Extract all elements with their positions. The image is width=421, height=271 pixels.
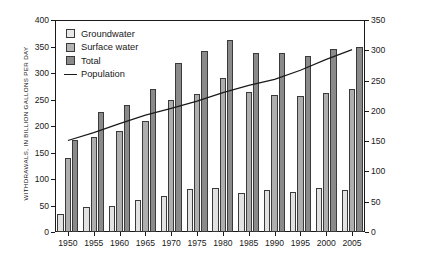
- y-tick-label-right: 150: [371, 136, 385, 146]
- legend-item-label: Surface water: [81, 42, 138, 52]
- chart-legend: GroundwaterSurface waterTotalPopulation: [66, 27, 138, 81]
- y-tick-right: [365, 81, 369, 82]
- x-tick-label-1995: 1995: [291, 238, 310, 248]
- x-tick-label-2000: 2000: [317, 238, 336, 248]
- legend-line-marker-icon: [64, 74, 77, 75]
- legend-swatch-icon: [66, 56, 75, 65]
- y-axis-left-title: WITHDRAWALS, IN BILLION GALLONS PER DAY: [22, 39, 29, 209]
- x-tick-label-1955: 1955: [84, 238, 103, 248]
- x-tick-label-2005: 2005: [343, 238, 362, 248]
- y-tick-right: [365, 232, 369, 233]
- y-tick-label-left: 350: [35, 42, 49, 52]
- y-tick-right: [365, 171, 369, 172]
- y-tick-right: [365, 111, 369, 112]
- y-tick-label-right: 350: [371, 15, 385, 25]
- y-tick-right: [365, 20, 369, 21]
- y-tick-left: [51, 232, 55, 233]
- y-tick-label-right: 0: [371, 227, 376, 237]
- y-tick-label-left: 400: [35, 15, 49, 25]
- x-tick-label-1970: 1970: [162, 238, 181, 248]
- x-tick: [249, 232, 250, 236]
- y-tick-right: [365, 202, 369, 203]
- legend-swatch-icon: [66, 29, 75, 38]
- x-tick: [145, 232, 146, 236]
- y-tick-label-right: 250: [371, 76, 385, 86]
- legend-item-label: Total: [81, 56, 101, 66]
- x-tick-label-1965: 1965: [136, 238, 155, 248]
- y-tick-label-right: 50: [371, 197, 381, 207]
- x-tick: [223, 232, 224, 236]
- y-tick-label-right: 300: [371, 45, 385, 55]
- y-tick-label-left: 0: [44, 227, 49, 237]
- x-tick-label-1960: 1960: [110, 238, 129, 248]
- x-tick: [352, 232, 353, 236]
- x-tick: [197, 232, 198, 236]
- legend-item-population: Population: [66, 68, 138, 82]
- x-tick-label-1950: 1950: [58, 238, 77, 248]
- y-tick-label-left: 50: [39, 201, 49, 211]
- y-tick-label-left: 250: [35, 95, 49, 105]
- x-tick: [326, 232, 327, 236]
- x-tick-label-1975: 1975: [188, 238, 207, 248]
- x-tick: [171, 232, 172, 236]
- x-tick: [68, 232, 69, 236]
- y-tick-label-left: 200: [35, 121, 49, 131]
- x-tick-label-1980: 1980: [213, 238, 232, 248]
- x-tick: [94, 232, 95, 236]
- x-tick-label-1990: 1990: [265, 238, 284, 248]
- legend-item-label: Groundwater: [81, 29, 135, 39]
- x-tick: [275, 232, 276, 236]
- legend-item-total: Total: [66, 54, 138, 68]
- x-tick: [120, 232, 121, 236]
- legend-item-groundwater: Groundwater: [66, 27, 138, 41]
- x-tick: [300, 232, 301, 236]
- x-tick-label-1985: 1985: [239, 238, 258, 248]
- legend-item-label: Population: [81, 69, 125, 79]
- y-tick-label-left: 100: [35, 174, 49, 184]
- y-tick-label-left: 300: [35, 68, 49, 78]
- chart-container: WITHDRAWALS, IN BILLION GALLONS PER DAY …: [0, 0, 421, 271]
- y-tick-label-right: 200: [371, 106, 385, 116]
- y-tick-right: [365, 141, 369, 142]
- y-tick-right: [365, 50, 369, 51]
- legend-item-surface-water: Surface water: [66, 41, 138, 55]
- y-tick-label-left: 150: [35, 148, 49, 158]
- y-tick-label-right: 100: [371, 166, 385, 176]
- legend-swatch-icon: [66, 43, 75, 52]
